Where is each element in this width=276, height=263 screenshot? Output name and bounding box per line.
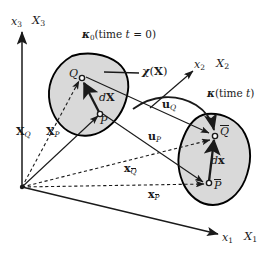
label-point-P-reference: P <box>100 115 107 126</box>
axis-label-x2: x2 <box>194 59 205 71</box>
reference-configuration-label: κ0(time t = 0) <box>82 29 156 41</box>
label-vector-X-Q: XQ <box>16 126 31 138</box>
vector-X-P <box>22 116 98 187</box>
axis-label-x3: x3 <box>11 16 22 28</box>
deformation-figure: x3 X3 x2 X2 x1 X1 κ0(time t = 0) κ(time … <box>0 0 276 263</box>
point-Q-current <box>212 133 217 138</box>
vector-x-P-current <box>22 184 204 187</box>
axis-label-X2: X2 <box>216 58 229 71</box>
axis-label-X3: X3 <box>32 15 45 28</box>
axis-label-x1: x1 <box>222 232 233 244</box>
label-point-P-current: P <box>214 180 221 191</box>
axis-x1 <box>22 187 218 234</box>
label-vector-x-Q-current: xQ <box>124 163 137 175</box>
mapping-chi-label: χ(X) <box>142 66 168 78</box>
point-Q-reference <box>79 75 84 80</box>
label-vector-dX: dX <box>99 92 115 103</box>
point-P-current <box>206 180 211 185</box>
label-point-Q-current: Q <box>220 126 229 137</box>
axis-label-X1: X1 <box>244 231 257 244</box>
label-vector-x-P-current: xP <box>148 189 160 201</box>
label-vector-u-P: uP <box>148 131 161 143</box>
current-configuration-label: κ(time t) <box>207 88 254 99</box>
label-vector-dx: dx <box>211 155 225 166</box>
origin-marker <box>20 185 24 189</box>
label-point-Q-reference: Q <box>69 68 78 79</box>
label-vector-X-P: XP <box>46 126 60 138</box>
label-vector-u-Q: uQ <box>162 99 176 111</box>
